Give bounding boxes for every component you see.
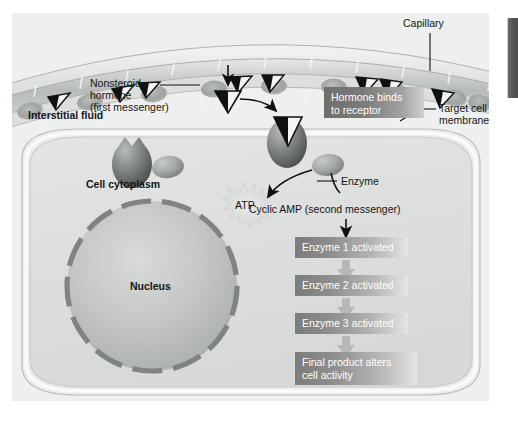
label-interstitial-fluid: Interstitial fluid <box>28 109 103 121</box>
label-cell-cytoplasm: Cell cytoplasm <box>86 178 160 190</box>
callout-line1: Hormone binds <box>331 91 417 104</box>
cascade-label-3: Enzyme 3 activated <box>302 317 401 330</box>
cascade-box-enzyme-1: Enzyme 1 activated <box>295 237 408 258</box>
label-target-cell-line2: membrane <box>439 114 489 126</box>
screenshot-root: Capillary Nonsteroid hormone (first mess… <box>0 0 518 422</box>
cascade-box-enzyme-2: Enzyme 2 activated <box>295 275 408 296</box>
label-cyclic-amp: Cyclic AMP (second messenger) <box>249 203 401 215</box>
label-nucleus: Nucleus <box>130 280 171 292</box>
cascade-label-4-line1: Final product alters <box>302 356 410 369</box>
cascade-label-1: Enzyme 1 activated <box>302 241 401 254</box>
label-nonsteroid-hormone-line2: hormone <box>90 89 131 101</box>
callout-line2: to receptor <box>331 104 417 117</box>
label-target-cell-line1: Target cell <box>439 102 487 114</box>
callout-hormone-binds: Hormone binds to receptor <box>324 87 424 118</box>
right-edge-scrollbar[interactable] <box>507 18 518 98</box>
cascade-box-enzyme-3: Enzyme 3 activated <box>295 313 408 334</box>
cascade-box-final-product: Final product alters cell activity <box>295 352 417 385</box>
cascade-label-2: Enzyme 2 activated <box>302 279 401 292</box>
biology-diagram-figure: Capillary Nonsteroid hormone (first mess… <box>12 13 489 401</box>
label-enzyme: Enzyme <box>341 175 379 187</box>
label-nonsteroid-hormone-line1: Nonsteroid <box>90 77 141 89</box>
label-capillary: Capillary <box>403 17 444 29</box>
cascade-label-4-line2: cell activity <box>302 369 410 382</box>
